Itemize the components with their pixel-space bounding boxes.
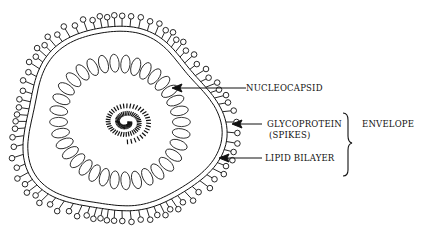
genome-coil xyxy=(106,103,151,144)
glycoprotein-label: GLYCOPROTEIN xyxy=(267,119,342,129)
nucleocapsid-label: NUCLEOCAPSID xyxy=(246,83,323,93)
envelope-brace xyxy=(343,113,352,176)
glycoprotein-spikes xyxy=(9,13,240,225)
lipid-bilayer-arrowhead-icon xyxy=(219,154,229,162)
spikes-label: (SPIKES) xyxy=(269,130,311,140)
envelope-label: ENVELOPE xyxy=(362,119,414,129)
lipid-bilayer-label: LIPID BILAYER xyxy=(265,153,334,163)
